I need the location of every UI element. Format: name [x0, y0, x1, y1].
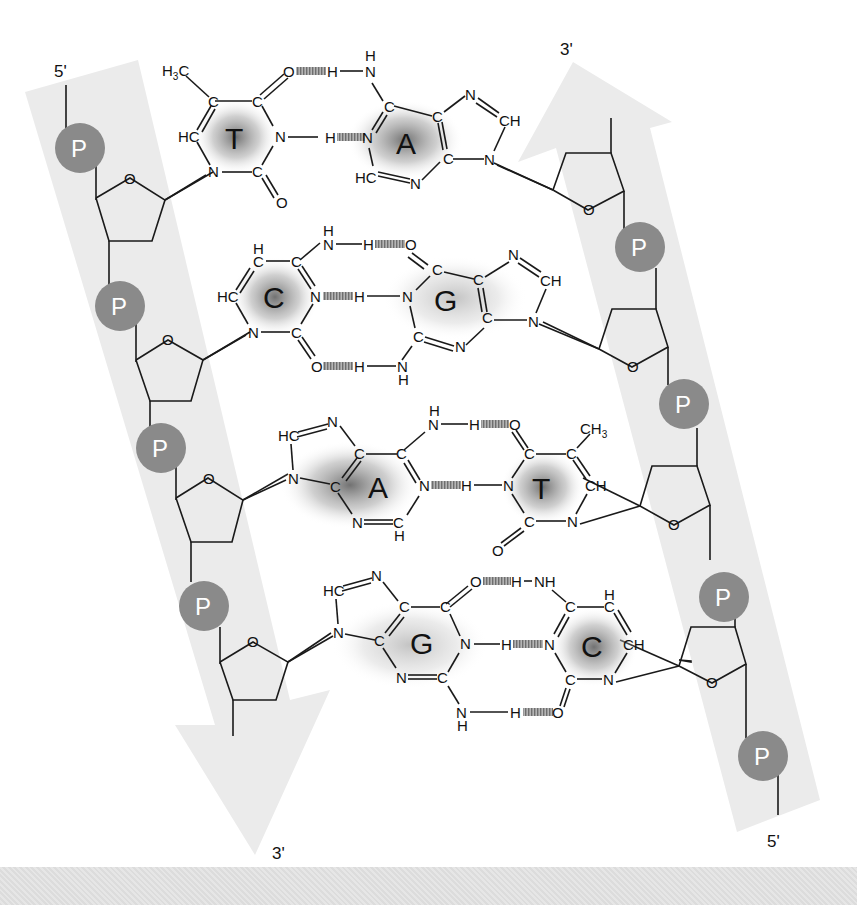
left-phosphate-2: P — [95, 281, 145, 331]
svg-text:C: C — [565, 671, 576, 688]
svg-text:N: N — [508, 246, 519, 263]
svg-text:C: C — [524, 513, 535, 530]
dna-diagram: 5' 3' 3' 5' O O O O P P — [0, 0, 857, 905]
svg-text:C: C — [291, 253, 302, 270]
svg-text:CH: CH — [540, 272, 562, 289]
svg-text:H: H — [363, 236, 374, 253]
hydrogen-bond — [375, 240, 405, 248]
svg-text:O: O — [276, 194, 288, 211]
left-strand-5prime-label: 5' — [54, 62, 67, 81]
svg-text:CH: CH — [623, 636, 645, 653]
svg-text:N: N — [484, 151, 495, 168]
dna-structure-svg: 5' 3' 3' 5' O O O O P P — [0, 0, 857, 905]
svg-text:O: O — [552, 704, 564, 721]
svg-text:H: H — [469, 416, 480, 433]
right-phosphate-1: P — [615, 222, 665, 272]
svg-text:N: N — [208, 163, 219, 180]
svg-text:H: H — [604, 586, 615, 603]
svg-text:O: O — [492, 542, 504, 559]
svg-text:N: N — [402, 288, 413, 305]
right-phosphate-3: P — [699, 572, 749, 622]
svg-text:N: N — [323, 236, 334, 253]
svg-text:N: N — [371, 567, 382, 584]
svg-text:H: H — [501, 636, 512, 653]
svg-text:C: C — [413, 328, 424, 345]
base-cytosine: C — [581, 630, 603, 663]
left-phosphate-1: P — [55, 123, 105, 173]
svg-text:HC: HC — [278, 427, 300, 444]
svg-text:N: N — [603, 671, 614, 688]
svg-text:C: C — [253, 253, 264, 270]
hydrogen-bond — [323, 292, 353, 300]
svg-text:P: P — [111, 293, 127, 320]
svg-text:HC: HC — [178, 128, 200, 145]
svg-text:N: N — [288, 470, 299, 487]
left-phosphate-3: P — [136, 423, 186, 473]
sugar-oxygen: O — [247, 633, 259, 650]
svg-text:P: P — [152, 435, 168, 462]
svg-text:N: N — [352, 514, 363, 531]
hydrogen-bond — [296, 67, 326, 75]
svg-text:N: N — [544, 636, 555, 653]
svg-text:N: N — [567, 513, 578, 530]
svg-text:N: N — [396, 669, 407, 686]
svg-text:P: P — [675, 391, 691, 418]
svg-text:N: N — [327, 413, 338, 430]
base-thymine: T — [225, 122, 243, 155]
base-guanine: G — [410, 627, 433, 660]
svg-text:C: C — [432, 261, 443, 278]
svg-text:C: C — [330, 478, 341, 495]
svg-text:C: C — [384, 98, 395, 115]
svg-text:N: N — [310, 288, 321, 305]
base-pair-4-g-c: HC N N C C C N N C G O H NH H — [288, 567, 679, 734]
svg-text:CH: CH — [585, 477, 607, 494]
svg-text:C: C — [437, 669, 448, 686]
svg-text:H: H — [511, 573, 522, 590]
svg-text:C: C — [208, 93, 219, 110]
svg-text:N: N — [528, 313, 539, 330]
svg-text:C: C — [566, 445, 577, 462]
svg-text:HC: HC — [323, 582, 345, 599]
svg-text:C: C — [473, 271, 484, 288]
svg-text:HC: HC — [355, 169, 377, 186]
right-strand-5prime-label: 5' — [767, 832, 780, 851]
svg-text:O: O — [311, 358, 323, 375]
base-cytosine: C — [263, 281, 285, 314]
right-phosphate-2: P — [659, 379, 709, 429]
base-guanine: G — [434, 284, 457, 317]
svg-text:N: N — [248, 324, 259, 341]
sugar-oxygen: O — [583, 201, 595, 218]
svg-text:N: N — [460, 635, 471, 652]
svg-text:NH: NH — [534, 573, 556, 590]
t-methyl: CH3 — [580, 420, 608, 440]
svg-text:C: C — [396, 445, 407, 462]
svg-text:C: C — [399, 598, 410, 615]
sugar-oxygen: O — [124, 170, 136, 187]
svg-text:N: N — [428, 416, 439, 433]
svg-text:P: P — [71, 135, 87, 162]
svg-text:H: H — [457, 717, 468, 734]
svg-text:C: C — [291, 324, 302, 341]
svg-text:N: N — [465, 86, 476, 103]
svg-text:P: P — [754, 743, 770, 770]
base-pair-3-a-t: HC N N C C C N N C H A H N H O H — [243, 402, 640, 559]
svg-text:H: H — [325, 129, 336, 146]
base-adenine: A — [368, 471, 388, 504]
svg-text:P: P — [715, 584, 731, 611]
sugar-oxygen: O — [668, 516, 680, 533]
svg-text:C: C — [252, 163, 263, 180]
svg-text:C: C — [443, 150, 454, 167]
svg-text:N: N — [455, 338, 466, 355]
svg-text:H: H — [461, 477, 472, 494]
svg-text:O: O — [509, 416, 521, 433]
svg-text:H: H — [365, 47, 376, 64]
svg-text:H: H — [394, 527, 405, 544]
svg-text:CH: CH — [499, 112, 521, 129]
svg-text:C: C — [432, 108, 443, 125]
base-thymine: T — [532, 472, 550, 505]
svg-text:N: N — [503, 477, 514, 494]
svg-text:H: H — [354, 358, 365, 375]
sugar-oxygen: O — [162, 331, 174, 348]
svg-text:C: C — [252, 93, 263, 110]
hydrogen-bond — [513, 640, 543, 648]
